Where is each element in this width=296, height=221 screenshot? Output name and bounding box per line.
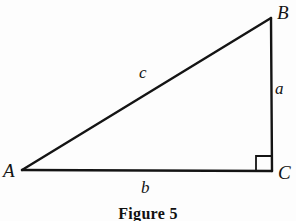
vertex-label-b: B [277, 3, 289, 22]
triangle-side-base [22, 170, 272, 171]
vertex-label-c: C [278, 163, 291, 182]
right-angle-marker-icon [256, 156, 271, 170]
figure-caption: Figure 5 [0, 205, 296, 221]
figure-right-triangle: A B C c a b Figure 5 [0, 0, 296, 221]
side-label-vertical-a: a [275, 80, 284, 97]
side-label-hypotenuse-c: c [139, 64, 147, 81]
vertex-label-a: A [3, 161, 15, 180]
triangle-side-hypotenuse [22, 18, 271, 170]
triangle-side-vertical [271, 18, 272, 171]
side-label-base-b: b [141, 179, 150, 196]
